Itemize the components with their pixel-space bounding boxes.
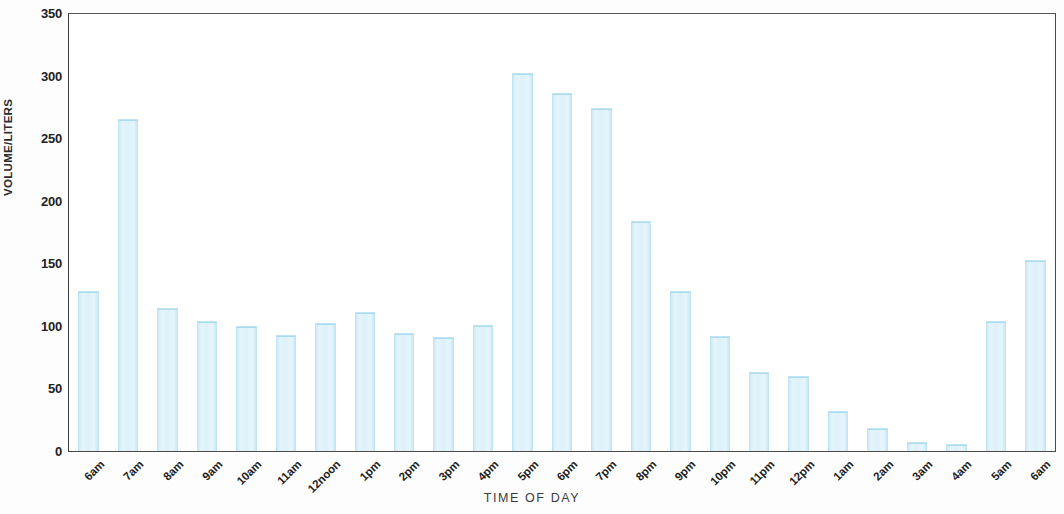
bar (512, 73, 533, 451)
x-axis-tick: 11am (275, 458, 304, 487)
x-axis-tick: 5am (989, 458, 1014, 483)
bar (78, 291, 99, 451)
x-axis-tick: 6am (1028, 458, 1053, 483)
x-axis-tick: 7am (121, 458, 146, 483)
x-axis-tick: 4am (949, 458, 974, 483)
x-axis-tick-labels: 6am7am8am9am10am11am12noon1pm2pm3pm4pm5p… (69, 452, 1055, 492)
bar (473, 325, 494, 451)
y-axis-title: VOLUME/LITERS (2, 180, 14, 196)
bar (867, 428, 888, 451)
x-axis-tick: 2am (870, 458, 895, 483)
y-axis-tick: 100 (18, 318, 62, 333)
bar-chart: VOLUME/LITERS 050100150200250300350 6am7… (0, 0, 1064, 514)
bar (946, 444, 967, 452)
y-axis-tick-labels: 050100150200250300350 (18, 0, 62, 514)
y-axis-tick: 200 (18, 193, 62, 208)
x-axis-tick: 7pm (594, 458, 619, 483)
bar (828, 411, 849, 451)
x-axis-tick: 11pm (748, 458, 777, 487)
x-axis-tick: 8am (161, 458, 186, 483)
bar (986, 321, 1007, 451)
bar (788, 376, 809, 451)
y-axis-tick: 300 (18, 68, 62, 83)
bar (631, 221, 652, 451)
bar (197, 321, 218, 451)
x-axis-tick: 9am (200, 458, 225, 483)
bar (1025, 260, 1046, 451)
y-axis-tick: 50 (18, 381, 62, 396)
bar (552, 93, 573, 451)
x-axis-tick: 10pm (708, 458, 737, 487)
x-axis-tick: 12pm (787, 458, 816, 487)
x-axis-tick: 1pm (357, 458, 382, 483)
bar (433, 337, 454, 451)
x-axis-tick: 2pm (397, 458, 422, 483)
y-axis-tick: 150 (18, 256, 62, 271)
bar (355, 312, 376, 451)
x-axis-tick: 6am (82, 458, 107, 483)
x-axis-tick: 6pm (554, 458, 579, 483)
y-axis-tick: 0 (18, 444, 62, 459)
x-axis-tick: 5pm (515, 458, 540, 483)
bar (907, 442, 928, 451)
y-axis-tick: 350 (18, 6, 62, 21)
x-axis-tick: 4pm (476, 458, 501, 483)
x-axis-tick: 12noon (306, 458, 343, 495)
bars-layer (69, 13, 1055, 451)
x-axis-tick: 8pm (633, 458, 658, 483)
y-axis-tick: 250 (18, 131, 62, 146)
bar (157, 308, 178, 451)
bar (394, 333, 415, 451)
x-axis-tick: 9pm (673, 458, 698, 483)
bar (749, 372, 770, 451)
bar (670, 291, 691, 451)
x-axis-title: TIME OF DAY (0, 491, 1064, 505)
bar (710, 336, 731, 451)
bar (276, 335, 297, 451)
bar (236, 326, 257, 451)
x-axis-tick: 3am (910, 458, 935, 483)
bar (118, 119, 139, 451)
x-axis-tick: 10am (235, 458, 264, 487)
x-axis-tick: 1am (831, 458, 856, 483)
bar (591, 108, 612, 451)
bar (315, 323, 336, 451)
x-axis-tick: 3pm (436, 458, 461, 483)
